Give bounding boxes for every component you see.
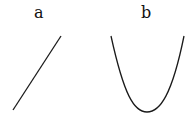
linear-curve [13,36,61,110]
parabola-curve [111,36,184,112]
diagram-canvas [0,0,194,121]
